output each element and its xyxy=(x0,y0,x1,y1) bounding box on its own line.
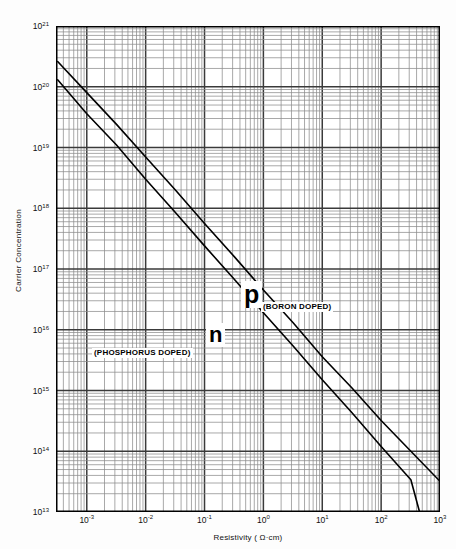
x-tick-label-10e-3: 10-3 xyxy=(79,514,94,525)
x-tick-label-10e-1: 10-1 xyxy=(197,514,212,525)
carrier-concentration-chart: Carrier Concentration 102110201019101810… xyxy=(0,0,456,549)
curve-label-p: p xyxy=(241,281,262,308)
plot-area xyxy=(56,26,440,512)
curve-label-n: n xyxy=(206,323,225,347)
curve-label-n-dopant: (PHOSPHORUS DOPED) xyxy=(92,348,193,358)
y-tick-label-10e21: 1021 xyxy=(33,21,49,32)
x-tick-label-10e1: 101 xyxy=(316,514,329,525)
y-tick-label-10e16: 1016 xyxy=(33,324,49,335)
x-tick-label-10e0: 100 xyxy=(257,514,270,525)
y-tick-label-10e14: 1014 xyxy=(33,446,49,457)
x-tick-label-10e2: 102 xyxy=(375,514,388,525)
y-tick-label-10e20: 1020 xyxy=(33,81,49,92)
x-tick-label-10e-2: 10-2 xyxy=(138,514,153,525)
y-tick-label-10e13: 1013 xyxy=(33,507,49,518)
x-tick-label-10e3: 103 xyxy=(434,514,447,525)
y-axis-tick-labels: 102110201019101810171016101510141013 xyxy=(0,26,56,512)
y-tick-label-10e19: 1019 xyxy=(33,142,49,153)
y-tick-label-10e17: 1017 xyxy=(33,264,49,275)
curve-label-p-dopant: (BORON DOPED) xyxy=(261,302,333,312)
x-axis-tick-labels: 10-310-210-1100101102103 xyxy=(56,514,440,532)
y-tick-label-10e15: 1015 xyxy=(33,385,49,396)
log-log-grid xyxy=(56,26,440,512)
x-axis-title: Resistivity ( Ω·cm) xyxy=(56,533,440,542)
y-tick-label-10e18: 1018 xyxy=(33,203,49,214)
